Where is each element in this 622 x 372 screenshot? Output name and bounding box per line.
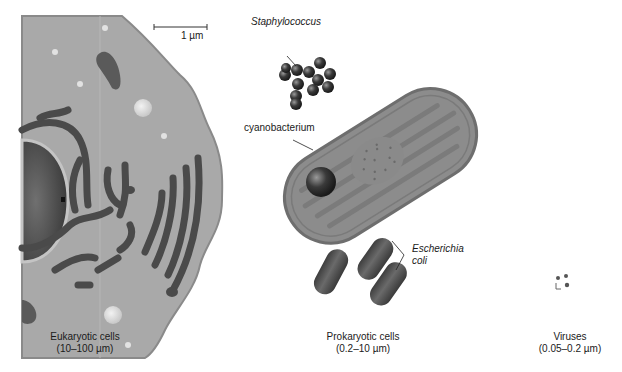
staphylococcus-label: Staphylococcus [251,16,321,28]
cyanobacterium [267,71,494,260]
caption-viruses-title: Viruses [520,331,620,343]
escherichia-label-line1: Escherichia [412,243,464,255]
eukaryotic-cell [22,16,222,358]
scale-bar-label: 1 µm [181,30,203,42]
caption-eukaryotic: Eukaryotic cells (10–100 µm) [30,331,140,355]
caption-eukaryotic-range: (10–100 µm) [30,343,140,355]
caption-prokaryotic: Prokaryotic cells (0.2–10 µm) [308,331,418,355]
caption-viruses: Viruses (0.05–0.2 µm) [520,331,620,355]
virus-particles [556,274,569,289]
cyanobacterium-granule [306,167,336,197]
escherichia-coli [310,234,411,310]
caption-prokaryotic-title: Prokaryotic cells [308,331,418,343]
cyanobacterium-pointer [293,140,313,150]
staphylococcus-cluster [279,56,336,110]
caption-prokaryotic-range: (0.2–10 µm) [308,343,418,355]
caption-viruses-range: (0.05–0.2 µm) [520,343,620,355]
cell-size-illustration [0,0,622,372]
escherichia-label-line2: coli [412,255,427,267]
caption-eukaryotic-title: Eukaryotic cells [30,331,140,343]
cyanobacterium-label: cyanobacterium [244,122,315,134]
